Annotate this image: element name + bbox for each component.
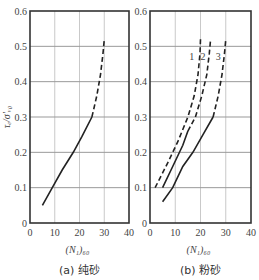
curve-curve: [42, 117, 92, 205]
x-tick-label: 10: [50, 227, 60, 238]
x-tick-label: 40: [246, 227, 256, 238]
y-axis-label: τₑ/σ'ᵥ₀: [1, 105, 12, 128]
curve-label: 3: [216, 51, 221, 62]
panel-a: 00.10.20.30.40.50.6010203040(N₁)₆₀(a) 纯砂…: [1, 6, 134, 278]
panel-caption: (b) 粉砂: [180, 264, 221, 277]
x-tick-label: 10: [170, 227, 180, 238]
x-tick-label: 20: [196, 227, 206, 238]
y-tick-label: 0.4: [15, 76, 28, 87]
curve-label: 1: [189, 51, 194, 62]
y-tick-label: 0.6: [15, 6, 28, 17]
x-tick-label: 30: [99, 227, 109, 238]
y-tick-label: 0.2: [135, 147, 148, 158]
y-tick-label: 0: [22, 218, 27, 229]
y-tick-label: 0: [142, 218, 147, 229]
panel-caption: (a) 纯砂: [59, 264, 100, 277]
curve-curve: [92, 39, 104, 117]
x-axis-label: (N₁)₆₀: [66, 244, 90, 256]
x-tick-label: 30: [221, 227, 231, 238]
y-tick-label: 0.4: [135, 76, 148, 87]
y-tick-label: 0.5: [135, 41, 148, 52]
y-tick-label: 0.2: [15, 147, 28, 158]
x-tick-label: 0: [148, 227, 153, 238]
x-tick-label: 20: [75, 227, 85, 238]
y-tick-label: 0.3: [15, 112, 28, 123]
x-tick-label: 0: [28, 227, 33, 238]
x-axis-label: (N₁)₆₀: [187, 244, 211, 256]
y-tick-label: 0.1: [135, 182, 148, 193]
y-tick-label: 0.5: [15, 41, 28, 52]
y-tick-label: 0.3: [135, 112, 148, 123]
x-tick-label: 40: [124, 227, 134, 238]
y-tick-label: 0.1: [15, 182, 28, 193]
curve-label: 2: [201, 51, 206, 62]
panel-b: 00.10.20.30.40.50.6010203040(N₁)₆₀(b) 粉砂…: [135, 6, 257, 278]
y-tick-label: 0.6: [135, 6, 148, 17]
figure: 00.10.20.30.40.50.6010203040(N₁)₆₀(a) 纯砂…: [0, 0, 259, 280]
